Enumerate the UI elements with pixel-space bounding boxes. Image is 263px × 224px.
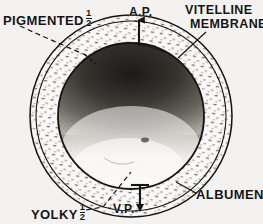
- yolky-fraction: 12: [80, 203, 86, 222]
- label-yolky-text: YOLKY: [31, 207, 78, 222]
- pigmented-fraction-denominator: 2: [86, 18, 92, 28]
- label-vitelline-line1: VITELLINE: [185, 4, 253, 17]
- label-pigmented-text: PIGMENTED: [3, 13, 84, 28]
- label-albumen: ALBUMEN: [196, 188, 263, 202]
- label-vegetal-pole: V.P.: [113, 203, 135, 215]
- yolky-fraction-denominator: 2: [80, 212, 86, 222]
- label-animal-pole: A.P.: [129, 6, 152, 18]
- label-yolky-half: YOLKY12: [31, 203, 85, 222]
- pigmented-fraction: 12: [86, 9, 92, 28]
- pigmented-fraction-numerator: 1: [86, 9, 92, 18]
- label-vitelline-line2: MEMBRANE: [190, 18, 263, 31]
- label-pigmented-half: PIGMENTED12: [3, 9, 92, 28]
- yolky-fraction-numerator: 1: [80, 203, 86, 212]
- egg-diagram-figure: PIGMENTED12 A.P. VITELLINE MEMBRANE YOLK…: [0, 0, 263, 224]
